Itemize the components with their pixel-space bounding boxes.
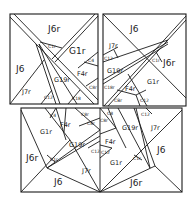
tile-label: C12 (91, 149, 100, 154)
tile-label: F4r (77, 70, 88, 78)
tile-label: J6 (129, 24, 139, 34)
tile-label: F4r (60, 121, 71, 129)
tile-label: C1r (48, 44, 56, 49)
tile-label: J7r (21, 88, 31, 96)
tile-label: J6r (25, 153, 38, 163)
tile-label: C12 (140, 98, 149, 103)
tile-label: J7r (108, 42, 118, 50)
tile-label: C1r (133, 156, 141, 161)
tile-label: C8r (87, 121, 95, 126)
tile-label: C12 (101, 150, 110, 155)
tile-label: C1r (50, 157, 58, 162)
tile-label: G19r (122, 124, 138, 132)
tile-label: J6 (15, 64, 25, 74)
tile-label: C1r (152, 58, 160, 63)
tile-label: F4r (125, 85, 136, 93)
tile-label: C4 (50, 113, 56, 118)
tile-label: J6r (129, 178, 142, 188)
tile-label: G1r (40, 128, 52, 136)
tile-label: J7r (81, 167, 91, 175)
tile-label: J6r (162, 58, 175, 68)
tile-label: C4 (88, 58, 94, 63)
tile-label: C12 (141, 112, 150, 117)
tile-label: J6r (47, 24, 60, 34)
tile-label: CBr (114, 98, 122, 103)
tile-label: C12 (44, 95, 53, 100)
tile-label: C18 (72, 96, 81, 101)
tile-label: F4r (105, 138, 116, 146)
tile-label: C18r (104, 85, 115, 90)
tile-label: C8 (107, 111, 113, 116)
tile-label: J6 (156, 145, 166, 155)
tile-label: G1r (110, 159, 122, 167)
tile-label: C8r (89, 85, 97, 90)
tile-label: G19r (69, 141, 85, 149)
tile-label: G1r (69, 46, 86, 56)
tile-label: J6 (53, 177, 63, 187)
tile-label: G19r (54, 76, 70, 84)
tiling-diagram: J6r J6 G1r C1r C4 F4r G19r J7r C12 C18 C… (0, 0, 193, 204)
tile-label: C8r (100, 118, 108, 123)
tile-label: G19r (107, 67, 123, 75)
tile-label: C12 (104, 56, 113, 61)
tile-label: G1r (147, 78, 159, 86)
tile-label: C8r (81, 112, 89, 117)
tile-label: J7r (150, 124, 160, 132)
